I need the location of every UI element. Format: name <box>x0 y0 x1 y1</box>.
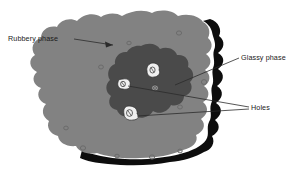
label-glassy-phase: Glassy phase <box>241 54 286 61</box>
hole-left <box>118 79 130 89</box>
polymer-morphology-figure: Rubbery phase Glassy phase Holes <box>0 0 295 183</box>
morphology-illustration <box>0 0 295 183</box>
label-holes: Holes <box>251 104 270 111</box>
label-rubbery-phase: Rubbery phase <box>8 35 58 42</box>
hole-top <box>147 63 160 77</box>
